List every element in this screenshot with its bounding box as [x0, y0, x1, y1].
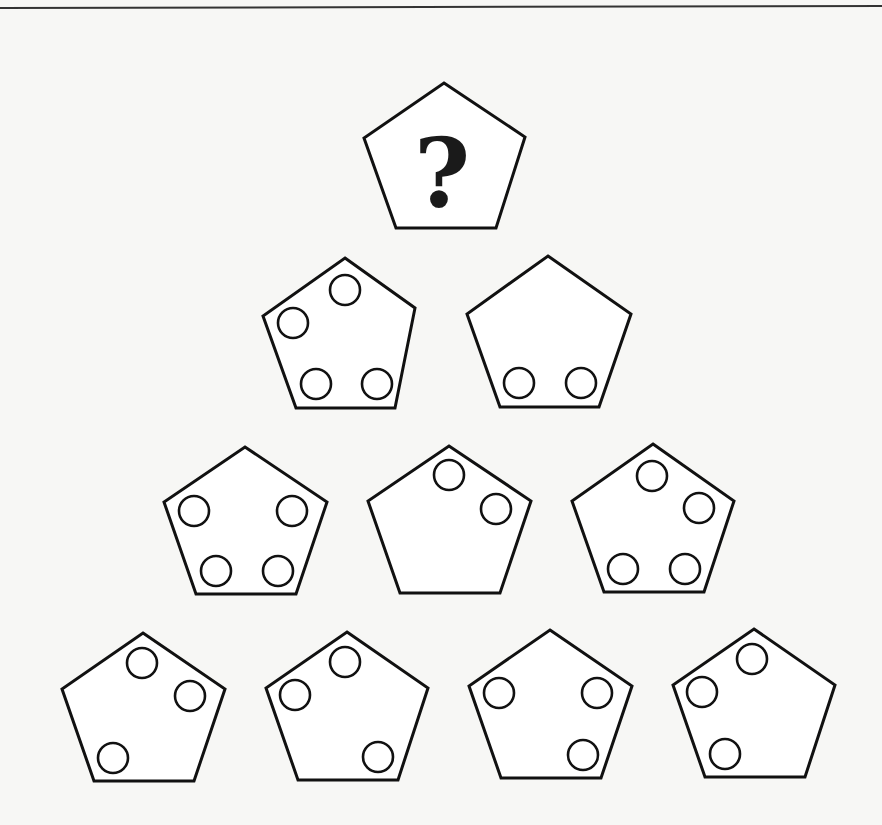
pentagon-r1-p1	[263, 258, 415, 408]
pentagon-r3-p2	[266, 632, 428, 780]
pentagon-r3-p3	[469, 630, 632, 778]
pentagon-r3-p1	[62, 633, 225, 781]
top-rule-divider	[0, 6, 882, 8]
pentagon-grid	[62, 256, 835, 781]
pentagon-r2-p1	[164, 447, 327, 594]
pentagon-r2-p2	[368, 446, 531, 593]
pentagon-outline	[467, 256, 631, 407]
pentagon-row-2	[164, 444, 734, 594]
pentagon-r3-p4	[673, 629, 835, 777]
pentagon-outline	[673, 629, 835, 777]
pentagon-r2-p3	[572, 444, 734, 592]
question-mark-icon: ?	[414, 117, 470, 230]
puzzle-canvas: ?	[0, 0, 882, 825]
pentagon-row-1	[263, 256, 631, 408]
pentagon-outline	[266, 632, 428, 780]
pentagon-row-3	[62, 629, 835, 781]
pentagon-r1-p2	[467, 256, 631, 407]
question-pentagon: ?	[364, 83, 525, 230]
